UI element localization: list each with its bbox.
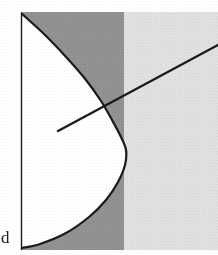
- axis-label-d: d: [1, 227, 19, 249]
- light-shaded-band: [124, 12, 218, 250]
- figure-container: d: [0, 0, 218, 255]
- parabola-figure-svg: [0, 0, 218, 255]
